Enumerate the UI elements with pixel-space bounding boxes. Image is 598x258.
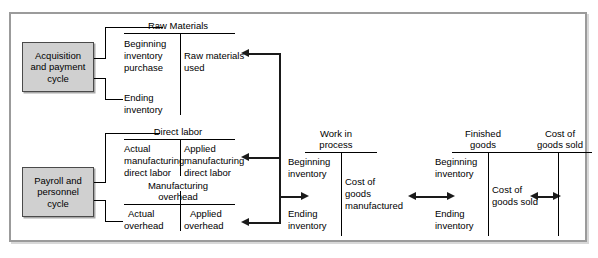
wip-center-rule (341, 152, 342, 236)
rm-debit-inventory: inventory (124, 50, 163, 62)
dl-debit-line1: Actual (124, 143, 150, 155)
flow-arrow-into-wip-line (279, 196, 303, 198)
fg-title-line2: goods (443, 139, 523, 151)
wip-title-line2: process (296, 139, 376, 151)
dl-credit-line2: manufacturing (184, 155, 244, 167)
flow-arrow-applied-labor-line (248, 157, 281, 159)
wip-title-line1: Work in (296, 128, 376, 140)
flow-arrow-applied-overhead-line (248, 222, 281, 224)
cgs-title-line1: Cost of (524, 128, 596, 140)
cycle-box-payroll[interactable]: Payroll and personnel cycle (22, 167, 94, 217)
connector-pay-bot-h2 (105, 221, 123, 222)
wip-credit-line2: goods (345, 188, 371, 200)
connector-pay-top-v (105, 133, 106, 183)
dl-credit-line1: Applied (184, 143, 216, 155)
pay-line-2: personnel (37, 186, 79, 197)
wip-debit-end-line2: inventory (288, 220, 327, 232)
connector-acq-bot-v (105, 78, 106, 100)
fg-debit-end-line1: Ending (435, 208, 465, 220)
flow-arrow-into-wip-head (301, 192, 309, 200)
flow-arrow-raw-materials-used-line (248, 53, 281, 55)
connector-acq-top-v (105, 27, 106, 59)
dl-debit-line3: direct labor (124, 167, 171, 179)
wip-credit-line3: manufactured (345, 200, 403, 212)
raw-materials-title: Raw Materials (133, 20, 223, 32)
wip-credit-line1: Cost of (345, 176, 375, 188)
wip-debit-beg-line2: inventory (288, 168, 327, 180)
rm-debit-beginning: Beginning (124, 38, 166, 50)
rm-credit-used-line1: Raw materials (184, 50, 244, 62)
acq-line-3: cycle (47, 73, 69, 84)
acq-line-2: and payment (31, 61, 86, 72)
overhead-title-line1: Manufacturing (133, 180, 223, 192)
fg-center-rule (488, 152, 489, 236)
wip-debit-end-line1: Ending (288, 208, 318, 220)
flow-arrow-wip-to-fg-head-left (408, 192, 416, 200)
rm-debit-ending: Ending (124, 92, 154, 104)
moh-credit-line2: overhead (184, 220, 224, 232)
fg-debit-beg-line2: inventory (435, 168, 474, 180)
flow-arrow-raw-materials-used-head (241, 49, 249, 57)
direct-labor-title: Direct labor (133, 126, 223, 138)
fg-credit-line1: Cost of (492, 184, 522, 196)
raw-materials-center-rule (180, 33, 181, 115)
fg-debit-beg-line1: Beginning (435, 156, 477, 168)
connector-acq-bot-h2 (105, 99, 123, 100)
overhead-center-rule (180, 191, 181, 231)
fg-debit-end-line2: inventory (435, 220, 474, 232)
acq-line-1: Acquisition (35, 50, 81, 61)
cycle-box-payroll-label: Payroll and personnel cycle (34, 175, 82, 210)
cycle-box-acquisition[interactable]: Acquisition and payment cycle (22, 42, 94, 92)
cgs-center-rule (558, 152, 559, 236)
flow-arrow-wip-to-fg-line (415, 196, 449, 198)
moh-debit-line1: Actual (128, 208, 154, 220)
diagram-canvas: Acquisition and payment cycle Payroll an… (0, 0, 598, 258)
flow-arrow-fg-to-cgs-head-left (530, 192, 538, 200)
flow-arrow-wip-to-fg-head-right (447, 192, 455, 200)
moh-credit-line1: Applied (190, 208, 222, 220)
cgs-title-line2: goods sold (524, 139, 596, 151)
flow-arrow-fg-to-cgs-head-right (553, 192, 561, 200)
overhead-title-line2: overhead (133, 191, 223, 203)
flow-arrow-applied-overhead-head (241, 218, 249, 226)
moh-debit-line2: overhead (124, 220, 164, 232)
pay-line-3: cycle (47, 198, 69, 209)
dl-debit-line2: manufacturing (124, 155, 184, 167)
fg-title-line1: Finished (443, 128, 523, 140)
pay-line-1: Payroll and (34, 175, 82, 186)
cycle-box-acquisition-label: Acquisition and payment cycle (31, 50, 86, 85)
wip-debit-beg-line1: Beginning (288, 156, 330, 168)
flow-arrow-applied-labor-head (241, 153, 249, 161)
rm-credit-used-line2: used (184, 62, 205, 74)
rm-debit-purchase: purchase (124, 62, 163, 74)
connector-pay-bot-v (105, 200, 106, 222)
dl-credit-line3: direct labor (184, 167, 231, 179)
rm-debit-ending-inventory: inventory (124, 104, 163, 116)
